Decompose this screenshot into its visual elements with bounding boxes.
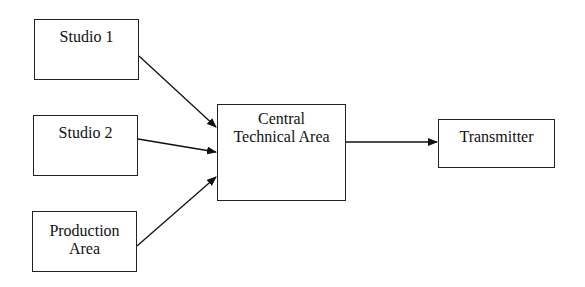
node-label: Transmitter (439, 128, 554, 146)
node-studio-2: Studio 2 (33, 115, 138, 176)
node-transmitter: Transmitter (438, 119, 555, 168)
arrow-studio2-to-central (138, 139, 216, 152)
arrow-production-to-central (137, 177, 216, 246)
arrow-studio1-to-central (139, 56, 216, 127)
node-label-line1: Central (218, 110, 345, 128)
node-label-line1: Production (33, 222, 136, 240)
node-production-area: Production Area (32, 211, 137, 272)
node-studio-1: Studio 1 (34, 19, 139, 80)
node-label-line2: Technical Area (218, 128, 345, 146)
node-label-line2: Area (33, 240, 136, 258)
node-label: Studio 2 (34, 124, 137, 142)
node-label: Studio 1 (35, 28, 138, 46)
node-central-technical-area: Central Technical Area (217, 104, 346, 201)
signal-flow-diagram: Studio 1 Studio 2 Production Area Centra… (0, 0, 585, 287)
